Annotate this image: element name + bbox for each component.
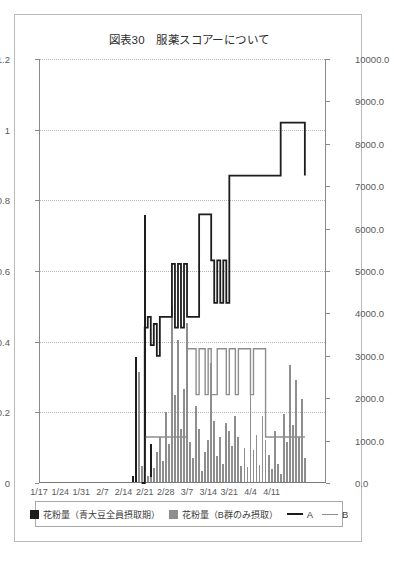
bar [165,412,167,482]
x-axis-tick-label: 1/31 [73,487,91,497]
y-axis-right-tick-mark [326,313,330,314]
x-axis-tick-label: 1/17 [30,487,48,497]
bar [204,452,206,482]
gridline [40,342,325,343]
bar [189,442,191,482]
y-axis-right-tick-label: 0.0 [355,478,394,489]
y-axis-left-tick-label: 1 [0,124,10,135]
bar [244,448,246,482]
bar [192,458,194,482]
bar-gray-swatch [169,510,178,519]
y-axis-right-tick-label: 9000.0 [355,96,394,107]
bar [237,437,239,482]
legend-item-label: 花粉量（B群のみ摂取） [182,508,278,521]
bar [231,446,233,482]
y-axis-right-tick-mark [326,144,330,145]
bar [301,399,303,482]
y-axis-left-tick-label: 0 [0,478,10,489]
bar [186,323,188,482]
bar [262,416,264,482]
y-axis-left-tick-label: 0.6 [0,266,10,277]
bar [210,363,212,482]
bar [153,468,155,482]
y-axis-right-tick-label: 4000.0 [355,308,394,319]
y-axis-right-tick-mark [326,229,330,230]
y-axis-left-tick-mark [35,342,39,343]
bar [219,437,221,482]
y-axis-right-tick-label: 3000.0 [355,350,394,361]
x-axis-tick-label: 3/7 [181,487,194,497]
bar [135,357,137,482]
bar [228,431,230,482]
legend-item[interactable]: B [322,509,348,520]
y-axis-left-tick-mark [35,130,39,131]
y-axis-right-tick-mark [326,186,330,187]
bar [283,414,285,482]
bar [250,382,252,482]
y-axis-left-tick-mark [35,200,39,201]
gridline [40,59,325,60]
bar [147,476,149,482]
y-axis-right-tick-label: 6000.0 [355,223,394,234]
bar [144,471,146,482]
bar [180,429,182,482]
y-axis-left-tick-mark [35,483,39,484]
bar [177,340,179,482]
y-axis-right-tick-label: 10000.0 [355,54,394,65]
y-axis-right-tick-label: 8000.0 [355,138,394,149]
y-axis-right-tick-label: 7000.0 [355,181,394,192]
bar [265,440,267,482]
x-axis-tick-label: 3/21 [221,487,239,497]
bar [144,215,146,482]
bar-dark-swatch [30,510,39,519]
bar [256,435,258,482]
y-axis-left-tick-label: 0.4 [0,336,10,347]
y-axis-right-tick-mark [326,271,330,272]
line-dark-swatch [287,513,303,515]
bar [292,425,294,482]
bar [240,466,242,482]
bar [222,464,224,482]
gridline [40,271,325,272]
bar [295,380,297,482]
bar [274,431,276,482]
x-axis-tick-label: 2/7 [96,487,109,497]
x-axis-tick-label: 4/11 [263,487,280,497]
legend-item-label: A [307,509,313,520]
y-axis-right-tick-mark [326,398,330,399]
y-axis-left-tick-label: 0.8 [0,195,10,206]
bar [289,365,291,482]
y-axis-right-tick-mark [326,356,330,357]
bar [138,372,140,482]
page-title: 図表30 服薬スコアーについて [15,31,363,47]
plot-area: 00.20.40.60.811.2 0.01000.02000.03000.04… [39,59,326,483]
bar [304,458,306,482]
legend-item[interactable]: A [287,509,313,520]
bar [132,476,134,482]
bar [225,423,227,482]
bar [174,395,176,482]
bar [141,466,143,482]
bar [195,406,197,482]
y-axis-right-tick-label: 2000.0 [355,393,394,404]
y-axis-left-tick-mark [35,412,39,413]
bar [253,450,255,482]
bar [183,389,185,482]
gridline [40,200,325,201]
legend-item[interactable]: 花粉量（B群のみ摂取） [169,508,278,521]
bar [159,437,161,482]
figure-container: 図表30 服薬スコアーについて 00.20.40.60.811.2 0.0100… [14,14,362,542]
line-gray-swatch [322,514,338,515]
bar [201,471,203,482]
bar [213,421,215,482]
bar [268,455,270,482]
legend-item[interactable]: 花粉量（青大豆全員摂取期） [30,508,160,521]
bar [277,464,279,482]
y-axis-right-tick-label: 5000.0 [355,266,394,277]
bar [150,477,152,482]
y-axis-left-tick-mark [35,59,39,60]
y-axis-left-tick-mark [35,271,39,272]
y-axis-left-tick-label: 0.2 [0,407,10,418]
bar [234,416,236,482]
bar [171,306,173,482]
